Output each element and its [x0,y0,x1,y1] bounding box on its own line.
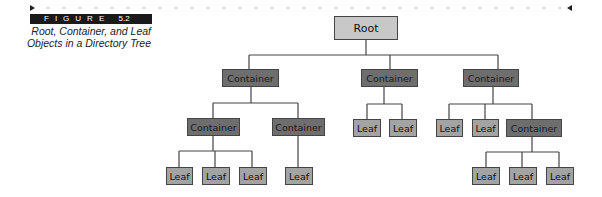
leaf-node: Leaf [202,167,230,185]
leaf-node: Leaf [285,167,313,185]
leaf-node: Leaf [472,119,499,137]
root-node: Root [334,16,398,40]
container-node: Container [361,69,418,87]
leaf-node: Leaf [546,167,574,185]
leaf-node: Leaf [353,119,381,137]
container-node: Container [506,119,562,137]
leaf-node: Leaf [436,119,463,137]
container-node: Container [222,69,279,87]
container-node: Container [463,69,519,87]
container-node: Container [272,118,325,136]
leaf-node: Leaf [472,167,500,185]
leaf-node: Leaf [509,167,537,185]
leaf-node: Leaf [166,167,193,185]
leaf-node: Leaf [389,119,417,137]
leaf-node: Leaf [239,167,267,185]
container-node: Container [187,118,240,136]
